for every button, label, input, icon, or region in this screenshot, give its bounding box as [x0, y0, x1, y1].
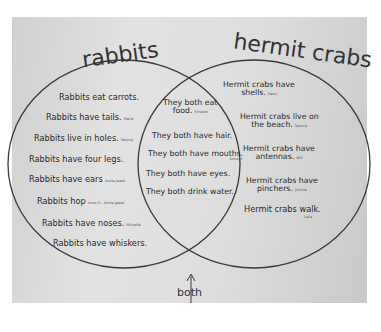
- shared-fact: They both have hair.: [152, 132, 232, 140]
- rabbit-fact: Rabbits have earsAnnie-Jewel: [29, 175, 125, 184]
- hermit-crab-fact: Hermit crabs live onthe beach.Tammy: [240, 113, 319, 129]
- hermit-crab-fact: Hermit crabs walk.Leila: [244, 205, 321, 220]
- both-label: both: [177, 287, 202, 298]
- shared-fact: They both have eyes.: [146, 170, 230, 178]
- rabbit-fact: Rabbits eat carrots.: [59, 93, 139, 101]
- hermit-crab-fact: Hermit crabs haveshells.Hans: [223, 81, 295, 97]
- shared-fact: They both eatfood.Ernesto: [163, 99, 217, 115]
- hermit-crab-fact: Hermit crabs haveantennas.Will: [243, 145, 315, 161]
- shared-fact: They both drink water.: [146, 188, 234, 196]
- shared-fact: They both have mouths.Anna H.: [148, 150, 243, 161]
- rabbit-fact: Rabbits have tails.Marie: [46, 113, 133, 122]
- rabbit-fact: Rabbits have whiskers.: [53, 239, 147, 247]
- rabbit-fact: Rabbits have noses.Michelle: [42, 219, 141, 228]
- rabbit-fact: Rabbits have four legs.: [29, 155, 123, 163]
- rabbit-fact: Rabbits hopAnna H., Annie-Jewel: [37, 197, 124, 206]
- rabbit-fact: Rabbits live in holes.Tammy: [34, 134, 133, 143]
- hermit-crab-fact: Hermit crabs havepinchers.Jimmie: [246, 177, 318, 193]
